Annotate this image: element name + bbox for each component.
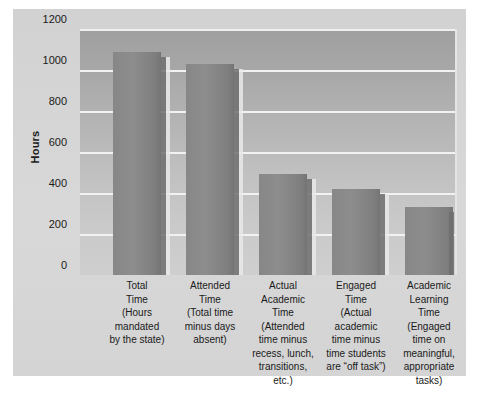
y-tick-200: 200 xyxy=(9,219,67,230)
plot-area xyxy=(80,29,457,275)
bar-highlight-engaged-time xyxy=(385,194,389,275)
bar-academic-learning-time[interactable] xyxy=(405,207,453,275)
bar-group-engaged-time xyxy=(332,29,380,275)
bar-group-total-time xyxy=(113,29,161,275)
bar-highlight-total-time xyxy=(166,57,170,275)
x-axis-category-labels: Total Time (Hours mandated by the state)… xyxy=(80,279,457,379)
x-category-desc-academic-learning-time: (Engaged time on meaningful, appropriate… xyxy=(382,320,476,388)
chart-figure: Hours 1200 1000 800 600 400 200 0 xyxy=(0,0,491,393)
y-tick-600: 600 xyxy=(9,137,67,148)
bar-attended-time[interactable] xyxy=(186,64,234,275)
y-tick-1000: 1000 xyxy=(9,55,67,66)
y-tick-800: 800 xyxy=(9,96,67,107)
bar-group-academic-learning-time xyxy=(405,29,453,275)
bar-group-actual-academic-time xyxy=(259,29,307,275)
bar-actual-academic-time[interactable] xyxy=(259,174,307,276)
y-tick-1200: 1200 xyxy=(9,14,67,25)
bar-group-attended-time xyxy=(186,29,234,275)
bar-highlight-actual-academic-time xyxy=(312,179,316,276)
y-tick-0: 0 xyxy=(9,260,67,271)
bar-shadow-academic-learning-time xyxy=(449,212,454,275)
bar-total-time[interactable] xyxy=(113,52,161,275)
chart-panel: Hours 1200 1000 800 600 400 200 0 xyxy=(13,9,466,376)
x-category-name-academic-learning-time: Academic Learning Time xyxy=(382,279,476,320)
bar-highlight-attended-time xyxy=(239,69,243,275)
x-category-academic-learning-time: Academic Learning Time (Engaged time on … xyxy=(382,279,476,387)
bar-engaged-time[interactable] xyxy=(332,189,380,275)
plot-right-edge xyxy=(455,29,457,275)
y-tick-400: 400 xyxy=(9,178,67,189)
